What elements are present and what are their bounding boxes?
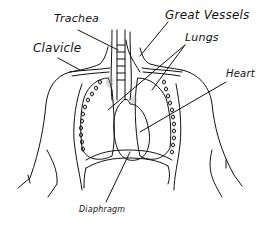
great-vessels-leader	[140, 22, 168, 56]
label-clavicle: Clavicle	[33, 41, 81, 55]
left-clavicle	[70, 68, 110, 72]
label-heart: Heart	[226, 68, 255, 79]
left-shoulder-outline	[18, 72, 70, 188]
left-lung	[81, 78, 115, 159]
right-shoulder-outline	[182, 70, 242, 186]
neck-right-outline	[140, 48, 182, 70]
great-vessel-right	[130, 32, 131, 100]
clavicle-leader	[58, 58, 80, 70]
right-lung	[135, 78, 171, 159]
label-great-vessels: Great Vessels	[165, 8, 249, 22]
diaphragm-right-leg	[168, 166, 170, 184]
right-rib-segments	[163, 80, 176, 154]
label-lungs: Lungs	[185, 31, 219, 44]
left-rib-segments	[80, 80, 102, 151]
label-trachea: Trachea	[54, 12, 99, 25]
lungs-leader-left	[108, 45, 185, 110]
thorax-diagram	[0, 0, 266, 231]
right-inner-arm	[210, 150, 222, 197]
lungs-leader-right	[152, 45, 185, 90]
left-clavicle-lower	[72, 72, 109, 76]
diaphragm-left-leg	[84, 168, 86, 188]
left-inner-arm	[47, 150, 57, 197]
great-vessel-branch	[126, 40, 140, 72]
label-diaphragm: Diaphragm	[79, 205, 125, 214]
